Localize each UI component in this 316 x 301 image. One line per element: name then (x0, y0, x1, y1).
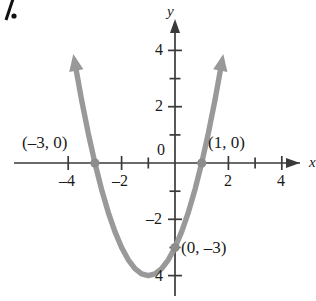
point-marker-y-intercept-neg3 (170, 243, 179, 252)
x-axis-arrow-icon (286, 158, 300, 168)
point-label-neg3-0: (–3, 0) (22, 134, 67, 151)
y-tick-label-neg4: 4 (155, 268, 163, 284)
point-marker-x-intercept-neg3 (90, 158, 99, 167)
x-tick-label-4: 4 (277, 173, 285, 189)
x-axis-label: x (309, 155, 316, 170)
point-marker-x-intercept-1 (197, 158, 206, 167)
x-tick-label-neg2: –2 (112, 173, 128, 189)
y-axis-label: y (167, 4, 174, 19)
y-tick-label-2: 2 (155, 98, 163, 114)
point-label-1-0: (1, 0) (208, 134, 245, 151)
problem-number-mark (0, 0, 17, 20)
curve-left-arrow-icon (69, 54, 83, 72)
graph-figure: y x –4 –2 2 4 4 2 0 –2 4 (–3, 0) (1, 0) … (0, 0, 316, 301)
x-tick-label-2: 2 (224, 173, 232, 189)
axes-group (14, 22, 300, 296)
y-tick-label-4: 4 (155, 42, 163, 58)
curve-right-arrow-icon (213, 54, 227, 72)
y-tick-label-neg2: –2 (146, 211, 162, 227)
point-label-0-neg3: (0, –3) (181, 239, 226, 256)
x-tick-label-neg4: –4 (59, 173, 75, 189)
y-tick-label-0: 0 (157, 142, 165, 158)
y-axis-arrow-icon (170, 19, 180, 33)
